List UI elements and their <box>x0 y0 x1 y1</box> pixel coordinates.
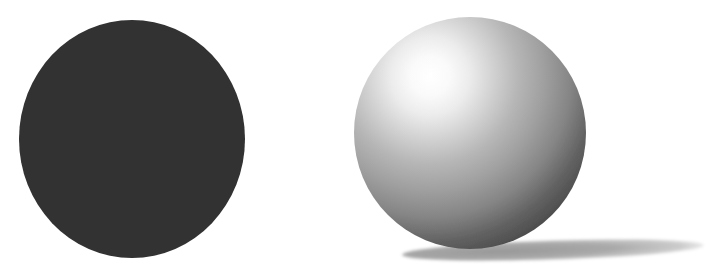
figure-canvas <box>0 0 709 271</box>
flat-circle <box>19 20 245 258</box>
shading-comparison-figure <box>0 0 709 271</box>
shaded-sphere <box>354 17 586 249</box>
